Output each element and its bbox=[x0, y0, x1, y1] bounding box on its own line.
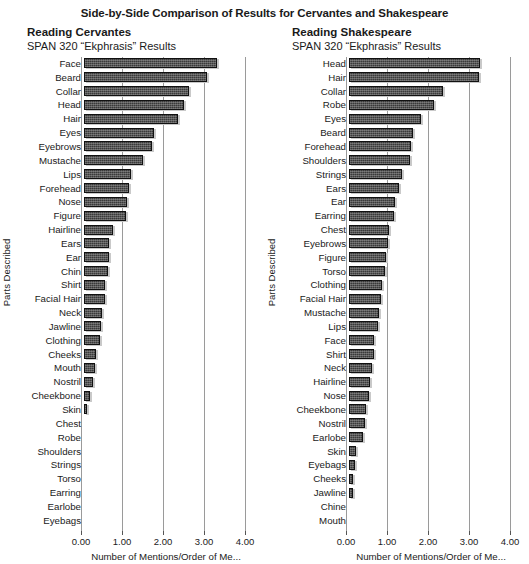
bar-category-label: Hairline bbox=[281, 377, 349, 387]
bar-category-label: Earlobe bbox=[281, 433, 349, 443]
bar bbox=[84, 266, 108, 276]
bar bbox=[84, 72, 207, 82]
bar-track bbox=[349, 486, 526, 500]
bar bbox=[84, 128, 154, 138]
bar-track bbox=[349, 472, 526, 486]
bar-track bbox=[84, 306, 261, 320]
bar-track bbox=[84, 195, 261, 209]
bar-row: Figure bbox=[281, 251, 526, 265]
bar-track bbox=[349, 292, 526, 306]
bar-row: Chin bbox=[16, 265, 261, 279]
bar-row: Lips bbox=[16, 168, 261, 182]
bar-category-label: Chine bbox=[281, 502, 349, 512]
bar-category-label: Eyebrows bbox=[16, 142, 84, 152]
bar-category-label: Forehead bbox=[16, 184, 84, 194]
bar bbox=[84, 308, 102, 318]
bar bbox=[84, 280, 105, 290]
bar-track bbox=[349, 500, 526, 514]
bar-row: Eyebags bbox=[281, 458, 526, 472]
bar-row: Facial Hair bbox=[281, 292, 526, 306]
plot-area-cervantes: Parts Described FaceBeardCollarHeadHairE… bbox=[0, 57, 265, 512]
bar-category-label: Mustache bbox=[16, 156, 84, 166]
x-axis-tick-label: 2.00 bbox=[154, 536, 173, 547]
bar bbox=[84, 294, 105, 304]
bar bbox=[349, 308, 379, 318]
bar-row: Shoulders bbox=[281, 154, 526, 168]
bar-category-label: Collar bbox=[16, 87, 84, 97]
bar-category-label: Forehead bbox=[281, 142, 349, 152]
bar bbox=[84, 391, 90, 401]
bar-category-label: Ears bbox=[16, 239, 84, 249]
bar-row: Beard bbox=[281, 126, 526, 140]
bar bbox=[349, 294, 381, 304]
bar-category-label: Clothing bbox=[16, 336, 84, 346]
bar-track bbox=[84, 85, 261, 99]
bar-track bbox=[84, 223, 261, 237]
x-axis-tick bbox=[469, 531, 470, 535]
bar-category-label: Strings bbox=[281, 170, 349, 180]
bar-track bbox=[349, 375, 526, 389]
bar-track bbox=[349, 237, 526, 251]
bar bbox=[349, 114, 421, 124]
bar bbox=[349, 183, 399, 193]
bar-row: Mustache bbox=[16, 154, 261, 168]
bar bbox=[349, 58, 480, 68]
bar-track bbox=[349, 417, 526, 431]
bar-row: Collar bbox=[16, 85, 261, 99]
bar-category-label: Figure bbox=[16, 211, 84, 221]
bar bbox=[349, 128, 413, 138]
bar-track bbox=[84, 362, 261, 376]
bar-track bbox=[349, 389, 526, 403]
bar bbox=[349, 488, 353, 498]
bar-row: Eyebrows bbox=[281, 237, 526, 251]
bar bbox=[349, 418, 365, 428]
bar-category-label: Eyes bbox=[16, 128, 84, 138]
bar-row: Skin bbox=[281, 445, 526, 459]
bar-track bbox=[84, 168, 261, 182]
bar-row: Skin bbox=[16, 403, 261, 417]
bar-category-label: Beard bbox=[281, 128, 349, 138]
bar bbox=[349, 432, 363, 442]
bar-row: Ear bbox=[281, 195, 526, 209]
bar bbox=[349, 155, 410, 165]
bar bbox=[84, 211, 126, 221]
bar-track bbox=[349, 334, 526, 348]
bar-category-label: Robe bbox=[281, 100, 349, 110]
bar bbox=[349, 474, 353, 484]
bar-category-label: Collar bbox=[281, 87, 349, 97]
bar-track bbox=[349, 126, 526, 140]
bar-track bbox=[349, 140, 526, 154]
bar bbox=[84, 100, 184, 110]
bar-row: Nostril bbox=[281, 417, 526, 431]
bar-category-label: Ear bbox=[281, 197, 349, 207]
bar-track bbox=[84, 251, 261, 265]
panel-shakespeare-subtitle: SPAN 320 “Ekphrasis” Results bbox=[292, 39, 529, 54]
bar-track bbox=[84, 403, 261, 417]
bar-row: Earlobe bbox=[281, 431, 526, 445]
x-axis-tick bbox=[245, 531, 246, 535]
bar bbox=[84, 86, 189, 96]
bar bbox=[84, 155, 143, 165]
bar-row: Mustache bbox=[281, 306, 526, 320]
bar bbox=[349, 377, 370, 387]
bar-row: Figure bbox=[16, 209, 261, 223]
bar-row: Lips bbox=[281, 320, 526, 334]
bar bbox=[349, 321, 378, 331]
bar-track bbox=[84, 334, 261, 348]
bar bbox=[349, 446, 356, 456]
bar bbox=[84, 225, 113, 235]
bar-track bbox=[84, 472, 261, 486]
bar-track bbox=[84, 458, 261, 472]
bar-rows-cervantes: FaceBeardCollarHeadHairEyesEyebrowsMusta… bbox=[16, 57, 261, 528]
bar bbox=[349, 363, 372, 373]
bar bbox=[349, 100, 434, 110]
bar bbox=[349, 404, 366, 414]
bar-category-label: Cheekbone bbox=[281, 405, 349, 415]
bar-track bbox=[349, 320, 526, 334]
x-axis-shakespeare: 0.001.002.003.004.00 Number of Mentions/… bbox=[281, 531, 526, 564]
bar-track bbox=[349, 209, 526, 223]
bar-track bbox=[84, 514, 261, 528]
x-axis-tick-label: 1.00 bbox=[113, 536, 132, 547]
bar bbox=[84, 238, 109, 248]
bar bbox=[84, 321, 101, 331]
